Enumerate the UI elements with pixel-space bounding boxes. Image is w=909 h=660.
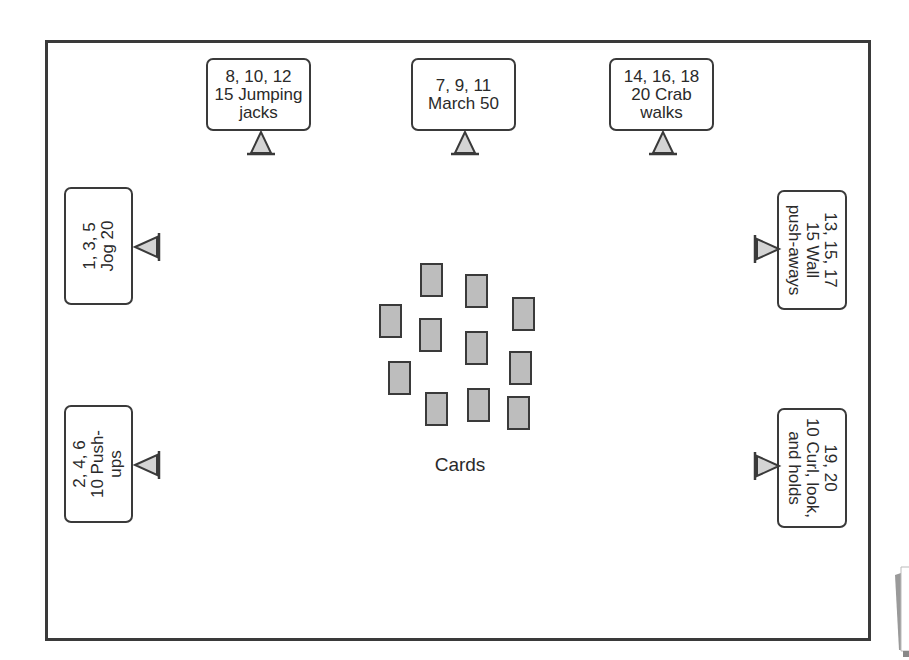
station-text: 14, 16, 18 20 Crab walks <box>624 68 700 122</box>
card <box>465 274 488 308</box>
station-text: 13, 15, 17 15 Wall push-aways <box>785 205 839 296</box>
station-text: 1, 3, 5 Jog 20 <box>80 220 116 271</box>
station-text: 7, 9, 11 March 50 <box>428 77 499 113</box>
card <box>509 351 532 385</box>
station-sign-curl-look-holds: 19, 20 10 Curl, look, and holds <box>777 408 847 528</box>
sign-stand-icon <box>450 131 480 156</box>
cards-label: Cards <box>420 454 500 476</box>
sign-stand-icon <box>752 234 780 264</box>
card <box>419 318 442 352</box>
station-sign-push-ups: 2, 4, 6 10 Push- ups <box>64 405 133 523</box>
card <box>379 304 402 338</box>
station-sign-jog: 1, 3, 5 Jog 20 <box>64 187 133 305</box>
sign-stand-icon <box>246 131 276 156</box>
station-sign-march: 7, 9, 11 March 50 <box>411 58 516 131</box>
card <box>512 297 535 331</box>
card <box>465 331 488 365</box>
sign-stand-icon <box>752 451 780 481</box>
card <box>507 396 530 430</box>
station-text: 2, 4, 6 10 Push- ups <box>72 430 126 498</box>
card <box>388 361 411 395</box>
card <box>420 263 443 297</box>
page-curl-icon <box>895 565 909 660</box>
station-text: 8, 10, 12 15 Jumping jacks <box>215 68 303 122</box>
sign-stand-icon <box>134 450 162 480</box>
sign-stand-icon <box>648 131 678 156</box>
station-sign-crab-walks: 14, 16, 18 20 Crab walks <box>609 58 714 131</box>
station-text: 19, 20 10 Curl, look, and holds <box>785 418 839 518</box>
card <box>425 392 448 426</box>
card <box>467 388 490 422</box>
station-sign-wall-push-aways: 13, 15, 17 15 Wall push-aways <box>777 190 847 310</box>
sign-stand-icon <box>134 232 162 262</box>
station-sign-jumping-jacks: 8, 10, 12 15 Jumping jacks <box>206 58 311 131</box>
